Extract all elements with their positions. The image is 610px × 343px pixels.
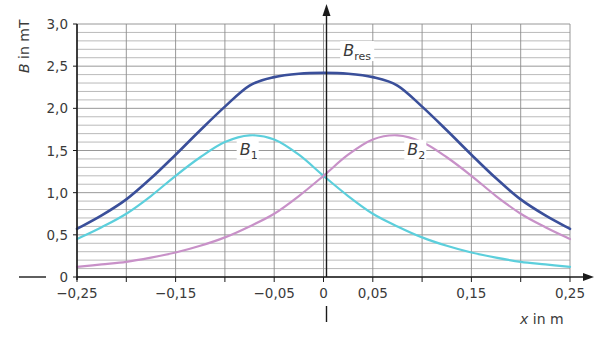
x-tick-label: 0,25 — [555, 285, 585, 301]
y-tick-label: 3,0 — [47, 16, 68, 32]
y-tick-label: 2,0 — [47, 100, 68, 116]
y-tick-labels: 00,51,01,52,02,53,0 — [47, 16, 77, 285]
y-axis-title: B in mT — [16, 19, 32, 73]
x-tick-label: −0,05 — [254, 285, 295, 301]
y-tick-label: 0 — [59, 269, 68, 285]
x-axis-title: x in m — [519, 311, 564, 327]
axes — [19, 4, 594, 322]
y-axis-arrow-icon — [323, 4, 331, 16]
x-tick-labels: −0,25−0,15−0,0500,050,150,25 — [56, 277, 585, 301]
magnetic-field-chart: 00,51,01,52,02,53,0 −0,25−0,15−0,0500,05… — [0, 0, 610, 343]
y-tick-label: 1,5 — [47, 143, 68, 159]
grid — [77, 24, 570, 277]
curve-labels: BresB1B2 — [237, 41, 427, 162]
y-tick-label: 1,0 — [47, 185, 68, 201]
x-tick-label: −0,25 — [56, 285, 97, 301]
x-tick-label: 0,05 — [358, 285, 388, 301]
x-axis-arrow-icon — [583, 273, 594, 281]
y-tick-label: 0,5 — [47, 227, 68, 243]
x-tick-label: 0 — [319, 285, 328, 301]
y-tick-label: 2,5 — [47, 58, 68, 74]
x-tick-label: 0,15 — [456, 285, 486, 301]
x-tick-label: −0,15 — [155, 285, 196, 301]
